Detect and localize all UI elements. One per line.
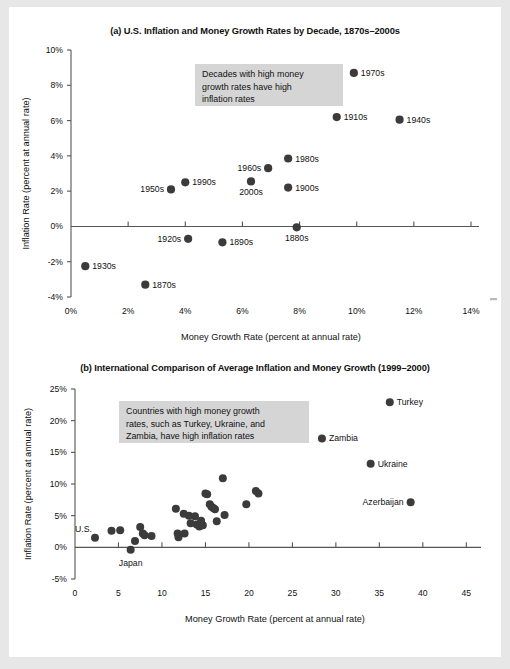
chart-b-annotation-line: rates, such as Turkey, Ukraine, and (126, 419, 265, 429)
chart-b-x-ticklabel: 0 (73, 588, 78, 598)
chart-a-annotation-line: Decades with high money (202, 69, 304, 79)
chart-a-data-point (184, 235, 192, 243)
chart-b-svg: 25%20%15%10%5%0%-5%051015202530354045Mon… (9, 347, 501, 657)
chart-b-data-point (213, 517, 221, 525)
chart-b-y-ticklabel: 5% (55, 511, 68, 521)
chart-a-y-ticklabel: 2% (51, 186, 64, 196)
chart-a-point-label: 1870s (152, 280, 176, 290)
chart-a-xlabel: Money Growth Rate (percent at annual rat… (181, 332, 361, 342)
chart-b-data-point (318, 434, 326, 442)
chart-a-y-ticklabel: 6% (51, 116, 64, 126)
chart-b-data-point (116, 526, 124, 534)
chart-a-point-label: 1950s (140, 184, 164, 194)
chart-b-data-point (141, 531, 149, 539)
chart-a-data-point (247, 177, 255, 185)
chart-a-data-point (181, 178, 189, 186)
chart-b-annotation-line: Countries with high money growth (126, 406, 260, 416)
chart-a-point-label: 1880s (285, 233, 309, 243)
chart-a-data-point (218, 238, 226, 246)
chart-b-data-point (91, 534, 99, 542)
chart-b-y-ticklabel: 10% (50, 479, 68, 489)
chart-b-x-ticklabel: 40 (418, 588, 428, 598)
chart-a-x-ticklabel: 6% (236, 306, 249, 316)
chart-b-x-ticklabel: 10 (157, 588, 167, 598)
chart-b-point-label: Zambia (329, 433, 358, 443)
chart-a-title: (a) U.S. Inflation and Money Growth Rate… (9, 26, 501, 36)
chart-a-point-label: 1940s (407, 115, 431, 125)
chart-a-data-point (284, 184, 292, 192)
chart-b-x-ticklabel: 30 (331, 588, 341, 598)
chart-b-data-point (407, 498, 415, 506)
chart-b-point-label: Azerbaijan (363, 497, 404, 507)
chart-b-data-point (211, 505, 219, 513)
chart-b-point-label: Japan (119, 558, 143, 568)
chart-b-y-ticklabel: 0% (55, 542, 68, 552)
chart-a-data-point (333, 113, 341, 121)
chart-b-y-ticklabel: -5% (52, 574, 68, 584)
chart-a-x-ticklabel: 14% (462, 306, 480, 316)
chart-b-xlabel: Money Growth Rate (percent at annual rat… (185, 614, 365, 624)
chart-b-annotation-line: Zambia, have high inflation rates (126, 431, 255, 441)
chart-a-svg: 10%8%6%4%2%0%-2%-4%0%2%4%6%8%10%12%14%Mo… (9, 7, 501, 347)
chart-b-data-point (172, 505, 180, 513)
chart-b-x-ticklabel: 35 (375, 588, 385, 598)
chart-a-y-ticklabel: 0% (51, 221, 64, 231)
chart-b-x-ticklabel: 45 (462, 588, 472, 598)
chart-a-point-label: 1890s (229, 237, 253, 247)
chart-b-y-ticklabel: 15% (50, 447, 68, 457)
chart-b-x-ticklabel: 15 (201, 588, 211, 598)
chart-a-x-ticklabel: 10% (348, 306, 366, 316)
chart-a-data-point (395, 116, 403, 124)
chart-a-point-label: 1960s (237, 163, 261, 173)
chart-b-point-label: U.S. (75, 524, 92, 534)
chart-panel-a: (a) U.S. Inflation and Money Growth Rate… (9, 7, 501, 347)
chart-b-x-ticklabel: 25 (288, 588, 298, 598)
chart-a-x-ticklabel: 4% (179, 306, 192, 316)
chart-b-ylabel: Inflation Rate (percent at annual rate) (23, 408, 33, 560)
chart-b-y-ticklabel: 25% (50, 384, 68, 394)
chart-a-data-point (81, 262, 89, 270)
chart-b-data-point (108, 527, 116, 535)
chart-a-point-label: 1990s (192, 177, 216, 187)
chart-b-data-point (199, 521, 207, 529)
chart-a-x-ticklabel: 0% (65, 306, 78, 316)
chart-b-data-point (386, 398, 394, 406)
chart-a-data-point (284, 154, 292, 162)
chart-a-y-ticklabel: -2% (48, 257, 64, 267)
chart-b-data-point (203, 490, 211, 498)
chart-a-point-label: 1930s (92, 261, 116, 271)
chart-b-point-label: Turkey (397, 397, 424, 407)
chart-a-data-point (293, 223, 301, 231)
chart-a-data-point (350, 69, 358, 77)
chart-b-data-point (242, 500, 250, 508)
chart-b-data-point (181, 529, 189, 537)
figure-sheet: (a) U.S. Inflation and Money Growth Rate… (9, 7, 501, 657)
chart-a-annotation-line: inflation rates (202, 94, 255, 104)
chart-b-data-point (219, 474, 227, 482)
chart-a-point-label: 1980s (295, 154, 319, 164)
chart-b-data-point (367, 460, 375, 468)
chart-a-point-label: 1900s (295, 183, 319, 193)
chart-a-point-label: 1910s (344, 112, 368, 122)
chart-b-data-point (131, 537, 139, 545)
chart-a-x-ticklabel: 12% (405, 306, 423, 316)
chart-b-data-point (221, 511, 229, 519)
chart-b-x-ticklabel: 5 (116, 588, 121, 598)
chart-b-x-ticklabel: 20 (244, 588, 254, 598)
chart-a-point-label: 1970s (361, 68, 385, 78)
chart-b-data-point (148, 532, 156, 540)
chart-b-title: (b) International Comparison of Average … (9, 363, 501, 373)
chart-b-y-ticklabel: 20% (50, 416, 68, 426)
chart-a-y-ticklabel: 4% (51, 151, 64, 161)
chart-a-data-point (264, 164, 272, 172)
chart-a-x-ticklabel: 8% (293, 306, 306, 316)
chart-b-data-point (254, 490, 262, 498)
chart-a-y-ticklabel: 8% (51, 80, 64, 90)
chart-a-data-point (141, 281, 149, 289)
stray-mark (490, 298, 497, 300)
chart-b-data-point (127, 546, 135, 554)
page-background: (a) U.S. Inflation and Money Growth Rate… (0, 0, 510, 669)
chart-a-annotation-line: growth rates have high (202, 82, 292, 92)
chart-a-data-point (167, 185, 175, 193)
chart-a-point-label: 1920s (157, 234, 181, 244)
